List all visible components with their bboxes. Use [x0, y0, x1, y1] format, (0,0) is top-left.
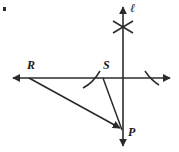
geometry-canvas: [0, 0, 179, 152]
point-label-p: P: [128, 126, 135, 138]
line-label-l: ℓ: [130, 2, 135, 14]
geometry-figure: R S P ℓ: [0, 0, 179, 152]
arc-near-S: [83, 71, 100, 88]
segment-S-to-P: [103, 78, 122, 130]
point-label-r: R: [27, 59, 35, 71]
point-label-s: S: [103, 59, 110, 71]
